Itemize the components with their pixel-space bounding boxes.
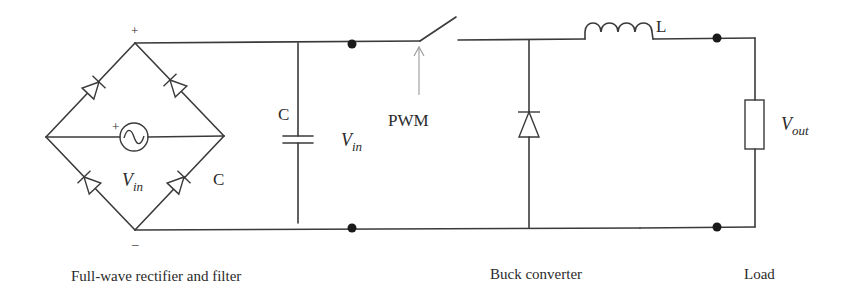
- node-vout-top: [713, 34, 722, 43]
- bridge-rectifier: + – + Vin C: [46, 23, 224, 251]
- source-plus-label: +: [112, 119, 119, 134]
- vout-label: Vout: [781, 114, 809, 138]
- switch-blade: [420, 17, 456, 41]
- vin-label: Vin: [341, 130, 362, 154]
- bottom-rail-load: [640, 227, 755, 228]
- diode-triangle: [519, 112, 539, 137]
- caption-load: Load: [744, 266, 775, 282]
- node-vin-top: [348, 40, 357, 49]
- load-resistor: [745, 100, 764, 149]
- source-vin-label: Vin: [122, 170, 143, 194]
- node-vout-bottom: [713, 223, 722, 232]
- circuit-diagram: + – + Vin C C Vin PWM: [0, 0, 853, 300]
- bottom-rail: [135, 228, 640, 230]
- inductor-coil: [585, 23, 653, 39]
- caption-buck: Buck converter: [490, 266, 582, 282]
- filter-cap-label: C: [278, 105, 289, 124]
- ac-source-lead-right: [148, 136, 224, 137]
- bridge-c-label: C: [213, 170, 224, 189]
- ac-source: [120, 123, 148, 151]
- inductor-label: L: [656, 17, 666, 36]
- bridge-plus-label: +: [131, 23, 138, 38]
- inductor-output-wire: [653, 38, 755, 39]
- freewheeling-diode: [518, 40, 540, 228]
- caption-rectifier: Full-wave rectifier and filter: [71, 268, 241, 284]
- load: Vout: [745, 38, 809, 227]
- buck-converter: PWM L: [388, 17, 755, 228]
- node-vin-bottom: [348, 224, 357, 233]
- switch-output-wire: [458, 39, 585, 40]
- bridge-minus-label: –: [131, 236, 139, 251]
- top-rail-input: [135, 41, 420, 43]
- inductor: L: [585, 17, 755, 39]
- sine-wave-icon: [124, 130, 144, 143]
- pwm-arrow: [414, 47, 424, 95]
- filter-capacitor: C: [278, 43, 313, 223]
- pwm-label: PWM: [388, 111, 429, 130]
